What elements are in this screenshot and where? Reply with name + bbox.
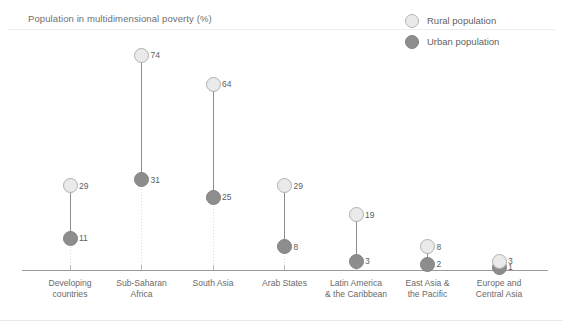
rural-data-point[interactable]: [277, 178, 292, 193]
rural-data-point[interactable]: [492, 254, 507, 269]
value-connector: [284, 186, 285, 247]
urban-data-point[interactable]: [63, 231, 78, 246]
x-axis-tick: [213, 265, 214, 270]
urban-data-point[interactable]: [206, 190, 221, 205]
urban-value-label: 8: [294, 243, 299, 252]
rural-value-label: 8: [437, 243, 442, 252]
rural-data-point[interactable]: [63, 178, 78, 193]
urban-data-point[interactable]: [277, 239, 292, 254]
value-connector: [213, 84, 214, 197]
urban-data-point[interactable]: [420, 257, 435, 272]
rural-value-label: 64: [222, 80, 231, 89]
rural-data-point[interactable]: [349, 207, 364, 222]
rural-value-label: 3: [508, 257, 513, 266]
rural-value-label: 74: [151, 51, 160, 60]
urban-data-point[interactable]: [134, 172, 149, 187]
rural-value-label: 19: [365, 211, 374, 220]
rural-data-point[interactable]: [134, 48, 149, 63]
x-axis-tick: [70, 265, 71, 270]
rural-data-point[interactable]: [206, 77, 221, 92]
plot-area: 1129Developingcountries3174Sub-SaharanAf…: [0, 0, 563, 321]
urban-value-label: 11: [79, 234, 88, 243]
rural-value-label: 29: [79, 182, 88, 191]
x-axis-tick: [284, 265, 285, 270]
x-axis-category-label: Europe andCentral Asia: [447, 278, 551, 300]
urban-data-point[interactable]: [349, 254, 364, 269]
urban-value-label: 3: [365, 257, 370, 266]
urban-value-label: 2: [437, 260, 442, 269]
chart-figure: Population in multidimensional poverty (…: [0, 0, 563, 321]
x-axis-line: [22, 270, 548, 271]
rural-data-point[interactable]: [420, 239, 435, 254]
x-axis-tick: [141, 265, 142, 270]
value-connector: [141, 55, 142, 180]
urban-value-label: 31: [151, 176, 160, 185]
category-gridline: [213, 197, 214, 270]
rural-value-label: 29: [294, 182, 303, 191]
category-gridline: [141, 180, 142, 270]
urban-value-label: 25: [222, 193, 231, 202]
